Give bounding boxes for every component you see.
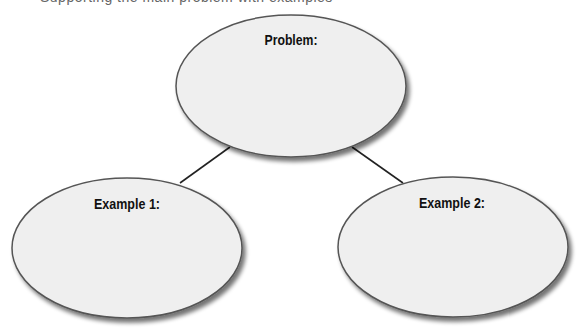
- problem-label: Problem:: [265, 31, 318, 48]
- example2-label: Example 2:: [419, 194, 485, 211]
- node-problem: Problem:: [176, 15, 406, 157]
- connector-line-problem-example2: [352, 147, 403, 183]
- node-example2: Example 2:: [338, 177, 568, 317]
- node-example1: Example 1:: [12, 178, 242, 318]
- concept-web-diagram: Problem:Example 1:Example 2:: [0, 0, 588, 336]
- connector-line-problem-example1: [180, 147, 230, 183]
- example1-label: Example 1:: [94, 195, 160, 212]
